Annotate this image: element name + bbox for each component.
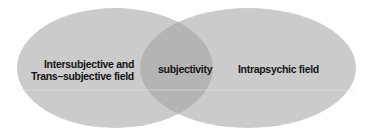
venn-diagram: Intersubjective and Trans–subjective fie… <box>0 0 375 139</box>
intrapsychic-field-label: Intrapsychic field <box>238 63 319 75</box>
left-label-line-2: Trans–subjective field <box>31 70 134 82</box>
intersubjective-field-label: Intersubjective and Trans–subjective fie… <box>31 58 134 82</box>
subjectivity-label: subjectivity <box>158 63 212 75</box>
left-label-line-1: Intersubjective and <box>31 58 134 70</box>
